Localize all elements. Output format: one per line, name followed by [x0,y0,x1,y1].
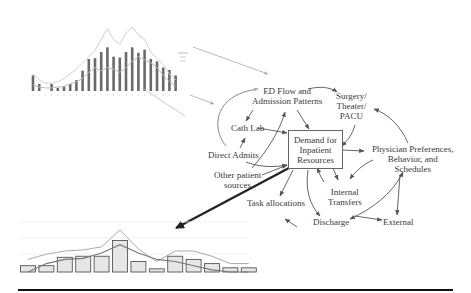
top-chart-legend [178,53,188,61]
bottom-chart-bar [149,269,164,272]
top-chart-bar [88,59,91,91]
bottom-chart [20,222,256,272]
top-chart-bar [156,61,159,91]
node-internal-transfers-line2: Transfers [328,197,362,207]
bottom-chart-bars [21,241,257,273]
node-demand-inpatient-resources: Demand for Inpatient Resources [288,130,343,169]
top-chart-bar [100,52,103,91]
node-external-line1: External [383,217,414,227]
node-cath-lab-line1: Cath Lab [231,123,264,133]
top-chart [32,27,188,96]
top-chart-bar [125,52,128,91]
chart-to-diagram-arrows [142,47,268,116]
top-chart-bar [119,57,122,91]
node-internal-transfers: Internal Transfers [328,187,362,207]
top-chart-bar [131,47,134,91]
bottom-chart-bar [21,266,36,272]
node-physician: Physician Preferences, Behavior, and Sch… [372,144,453,174]
bottom-chart-bar [241,268,256,272]
node-external: External [383,217,414,227]
node-direct-admits: Direct Admits [208,150,259,160]
top-chart-line-upper [33,27,176,83]
node-surgery: Surgery/ Theater/ PACU [336,91,367,121]
top-chart-bar [137,53,140,91]
bottom-chart-bar [131,262,146,273]
node-ed-flow: ED Flow and Admission Patterns [252,86,322,106]
node-internal-transfers-line1: Internal [328,187,362,197]
top-chart-bar [69,84,72,91]
node-surgery-line3: PACU [336,111,367,121]
node-other-sources: Other patient sources [214,170,261,190]
node-demand-line1: Demand for [289,135,342,145]
top-chart-line-lower [33,57,176,88]
bottom-chart-bar [39,266,54,272]
node-task-allocations: Task allocations [247,198,305,208]
node-physician-line2: Behavior, and [372,154,453,164]
node-task-allocations-line1: Task allocations [247,198,305,208]
node-ed-flow-line1: ED Flow and [252,86,322,96]
top-chart-bar [112,57,115,91]
node-other-sources-line2: sources [214,180,261,190]
node-physician-line3: Schedules [372,164,453,174]
top-chart-bar [32,75,35,91]
bottom-rule [18,289,453,291]
bottom-chart-bar [94,256,109,272]
node-cath-lab: Cath Lab [231,123,264,133]
node-ed-flow-line2: Admission Patterns [252,96,322,106]
top-chart-bar [162,68,165,91]
node-other-sources-line1: Other patient [214,170,261,180]
top-chart-bar [94,58,97,91]
node-discharge-line1: Discharge [313,217,349,227]
bottom-chart-bar [168,256,183,272]
node-demand-line3: Resources [289,155,342,165]
node-surgery-line1: Surgery/ [336,91,367,101]
node-demand-line2: Inpatient [289,145,342,155]
node-discharge: Discharge [313,217,349,227]
node-surgery-line2: Theater/ [336,101,367,111]
top-chart-bar [81,71,84,91]
top-chart-bar [174,75,177,91]
top-chart-bar [57,88,60,91]
top-chart-bar [63,86,66,91]
node-physician-line1: Physician Preferences, [372,144,453,154]
top-chart-bar [106,47,109,91]
node-direct-admits-line1: Direct Admits [208,150,259,160]
top-chart-bar [143,50,146,91]
